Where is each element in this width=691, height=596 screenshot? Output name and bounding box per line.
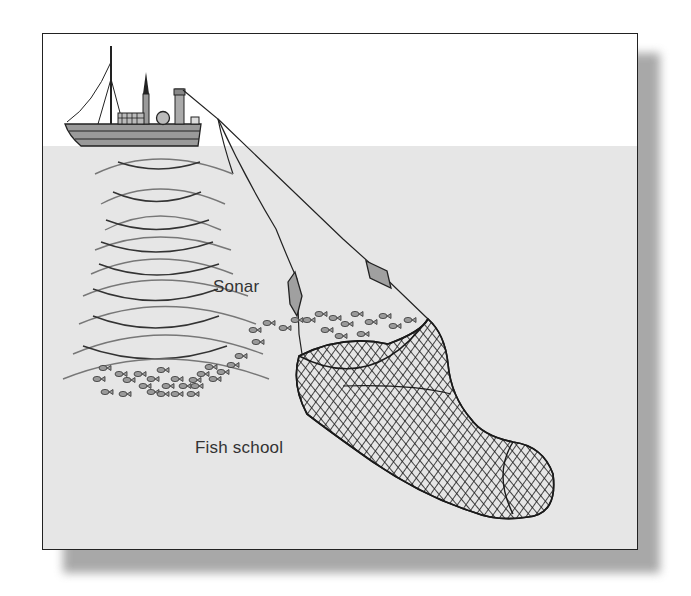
sonar-waves: [63, 159, 269, 379]
illustration-frame: Sonar Fish school: [42, 33, 638, 550]
trawler-illustration: [43, 34, 638, 550]
trawl-net: [296, 319, 553, 519]
sonar-label: Sonar: [213, 277, 259, 297]
ship: [65, 46, 201, 146]
fish-school-label: Fish school: [195, 438, 283, 458]
otter-boards: [288, 261, 391, 316]
